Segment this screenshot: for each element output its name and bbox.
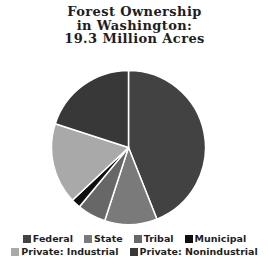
legend-swatch-state [84, 235, 92, 243]
legend-item-federal: Federal [23, 233, 73, 244]
legend: FederalStateTribalMunicipal Private: Ind… [0, 233, 269, 257]
legend-row-2: Private: IndustrialPrivate: Nonindustria… [11, 246, 258, 257]
legend-item-state: State [84, 233, 123, 244]
chart-title-line1: Forest Ownership [0, 5, 269, 19]
legend-swatch-private-industrial [11, 248, 19, 256]
legend-swatch-tribal [134, 235, 142, 243]
legend-swatch-municipal [185, 235, 193, 243]
legend-swatch-private-nonindustrial [130, 248, 138, 256]
chart-title-line3: 19.3 Million Acres [0, 32, 269, 46]
legend-swatch-federal [23, 235, 31, 243]
chart-image: Forest Ownership in Washington: 19.3 Mil… [0, 0, 269, 269]
legend-label-municipal: Municipal [195, 233, 247, 244]
legend-item-private-nonindustrial: Private: Nonindustrial [130, 246, 258, 257]
legend-label-private-nonindustrial: Private: Nonindustrial [140, 246, 258, 257]
chart-title-line2: in Washington: [0, 19, 269, 33]
legend-row-1: FederalStateTribalMunicipal [23, 233, 246, 244]
legend-label-tribal: Tribal [144, 233, 174, 244]
legend-label-state: State [94, 233, 123, 244]
legend-item-municipal: Municipal [185, 233, 247, 244]
legend-item-tribal: Tribal [134, 233, 174, 244]
pie-chart [50, 69, 207, 226]
legend-label-private-industrial: Private: Industrial [21, 246, 118, 257]
legend-item-private-industrial: Private: Industrial [11, 246, 118, 257]
chart-title: Forest Ownership in Washington: 19.3 Mil… [0, 5, 269, 46]
pie-chart-area [50, 69, 207, 226]
legend-label-federal: Federal [33, 233, 73, 244]
